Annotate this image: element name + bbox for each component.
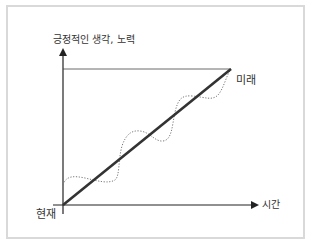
wavy-progress-line [63, 69, 231, 185]
x-axis-label: 시간 [262, 200, 280, 210]
y-axis-label: 긍정적인 생각, 노력 [53, 35, 135, 45]
end-label: 미래 [236, 75, 256, 86]
origin-label: 현재 [36, 209, 56, 220]
straight-progress-line [63, 69, 231, 205]
